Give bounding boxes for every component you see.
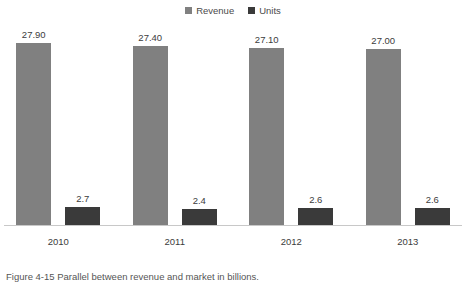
bar-slot-units-2013: 2.6 <box>415 24 450 225</box>
x-tick-label-2011: 2011 <box>119 237 231 247</box>
bar-slot-units-2012: 2.6 <box>298 24 333 225</box>
bar-units-2010 <box>65 207 100 225</box>
chart-legend: Revenue Units <box>0 6 466 16</box>
bar-revenue-2010 <box>16 43 51 225</box>
bar-value-units-2011: 2.4 <box>193 196 206 206</box>
legend-label-revenue: Revenue <box>196 6 234 16</box>
bar-value-revenue-2011: 27.40 <box>138 33 162 43</box>
bar-slot-revenue-2013: 27.00 <box>366 24 401 225</box>
bar-group-2011: 27.40 2.4 2011 <box>119 24 231 250</box>
bar-group-2010: 27.90 2.7 2010 <box>2 24 114 250</box>
x-tick-label-2010: 2010 <box>2 237 114 247</box>
bar-slot-revenue-2010: 27.90 <box>16 24 51 225</box>
legend-label-units: Units <box>259 6 281 16</box>
bar-groups: 27.90 2.7 2010 27.40 2.4 2011 <box>0 24 466 250</box>
x-tick-label-2012: 2012 <box>235 237 347 247</box>
bar-slot-units-2010: 2.7 <box>65 24 100 225</box>
bar-revenue-2013 <box>366 49 401 225</box>
bar-units-2013 <box>415 208 450 225</box>
bar-slot-units-2011: 2.4 <box>182 24 217 225</box>
bar-value-revenue-2010: 27.90 <box>22 30 46 40</box>
bar-slot-revenue-2012: 27.10 <box>249 24 284 225</box>
legend-item-units: Units <box>248 6 281 16</box>
bar-value-units-2012: 2.6 <box>309 195 322 205</box>
bar-group-2013: 27.00 2.6 2013 <box>352 24 464 250</box>
bar-value-units-2010: 2.7 <box>76 194 89 204</box>
bar-units-2012 <box>298 208 333 225</box>
bar-value-units-2013: 2.6 <box>426 195 439 205</box>
bar-value-revenue-2013: 27.00 <box>371 36 395 46</box>
x-tick-label-2013: 2013 <box>352 237 464 247</box>
bar-revenue-2011 <box>133 46 168 225</box>
figure-caption: Figure 4-15 Parallel between revenue and… <box>6 271 406 282</box>
legend-swatch-units-icon <box>248 7 255 14</box>
bar-units-2011 <box>182 209 217 225</box>
plot-area: 27.90 2.7 2010 27.40 2.4 2011 <box>0 24 466 250</box>
bar-value-revenue-2012: 27.10 <box>255 35 279 45</box>
bar-revenue-2012 <box>249 48 284 225</box>
legend-item-revenue: Revenue <box>185 6 234 16</box>
bar-slot-revenue-2011: 27.40 <box>133 24 168 225</box>
bar-group-2012: 27.10 2.6 2012 <box>235 24 347 250</box>
legend-swatch-revenue-icon <box>185 7 192 14</box>
